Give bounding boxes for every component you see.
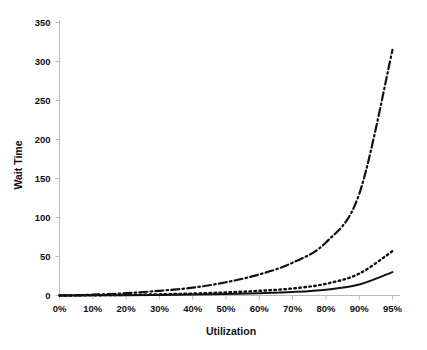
x-axis-tick-labels: 0%10%20%30%40%50%60%70%80%90%95% (53, 303, 403, 314)
y-tick-label: 150 (35, 173, 51, 184)
x-tick-label: 60% (250, 303, 270, 314)
x-tick-label: 40% (183, 303, 203, 314)
x-axis-title: Utilization (206, 325, 256, 337)
y-tick-label: 250 (35, 95, 51, 106)
series-line-high-variability (60, 50, 393, 296)
y-axis-title: Wait Time (12, 140, 24, 189)
x-tick-label: 0% (53, 303, 67, 314)
x-tick-label: 10% (83, 303, 103, 314)
y-tick-label: 0 (45, 290, 50, 301)
x-tick-label: 80% (316, 303, 336, 314)
x-tick-label: 50% (216, 303, 236, 314)
series-lines (60, 50, 393, 296)
wait-time-utilization-chart: 050100150200250300350 0%10%20%30%40%50%6… (0, 0, 427, 350)
series-line-medium-variability (60, 251, 393, 295)
y-tick-label: 350 (35, 17, 51, 28)
x-tick-label: 20% (117, 303, 137, 314)
y-tick-label: 300 (35, 56, 51, 67)
x-tick-label: 90% (350, 303, 370, 314)
y-tick-label: 200 (35, 134, 51, 145)
x-tick-label: 30% (150, 303, 170, 314)
y-tick-label: 50 (40, 251, 51, 262)
chart-canvas: 050100150200250300350 0%10%20%30%40%50%6… (0, 0, 427, 350)
x-tick-label: 95% (383, 303, 403, 314)
y-axis-tick-labels: 050100150200250300350 (35, 17, 51, 301)
y-axis-tick-marks (56, 23, 60, 296)
x-tick-label: 70% (283, 303, 303, 314)
y-tick-label: 100 (35, 212, 51, 223)
